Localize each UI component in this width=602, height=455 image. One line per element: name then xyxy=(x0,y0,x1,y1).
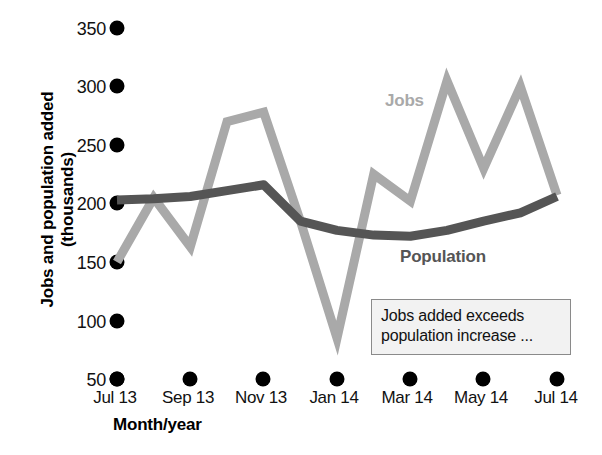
chart-container: Jobs and population added (thousands) 35… xyxy=(0,0,602,455)
plot-area xyxy=(0,0,602,455)
annotation-line-1: Jobs added exceeds xyxy=(381,306,561,326)
series-label-jobs: Jobs xyxy=(385,91,424,111)
series-label-population: Population xyxy=(400,247,486,267)
x-axis-tick-dots xyxy=(110,372,565,387)
series-line-population xyxy=(117,185,557,237)
annotation-callout: Jobs added exceeds population increase .… xyxy=(371,299,571,355)
annotation-line-2: population increase ... xyxy=(381,326,561,346)
